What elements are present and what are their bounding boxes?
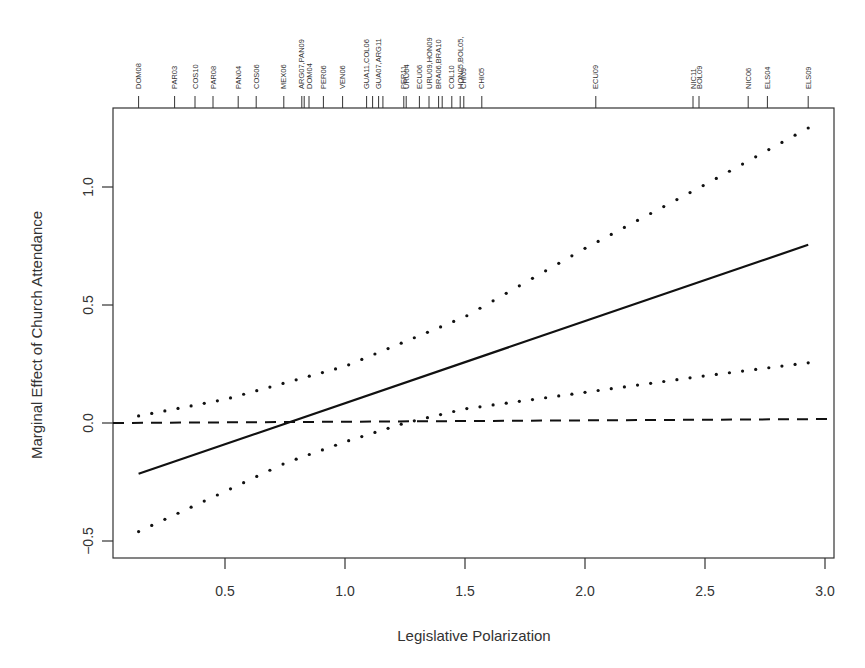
marginal-effect-plot: 0.51.01.52.02.53.0 −0.50.00.51.0 DOM08PA… (0, 0, 865, 668)
rug-label: VEN06 (338, 65, 347, 89)
rug-label: PAR08 (209, 66, 218, 89)
rug-label: BOL09 (695, 66, 704, 89)
rug-label: BRA06,BRA10 (434, 39, 443, 89)
y-tick-label: 1.0 (80, 177, 96, 197)
rug-label: ELS09 (804, 66, 813, 89)
plot-frame (113, 108, 834, 558)
rug-label: ECU06 (415, 65, 424, 89)
top-rug-case-labels: DOM08PAR03COS10PAR08PAN04COS06MEX06ARG07… (134, 36, 813, 108)
rug-label: COS10 (191, 64, 200, 89)
rug-label: MEX06 (279, 64, 288, 89)
rug-label: PER06 (319, 65, 328, 89)
rug-label: ECU09 (591, 65, 600, 89)
x-tick-label: 2.5 (695, 583, 715, 599)
data-series (113, 126, 834, 533)
upper-ci-dots (137, 126, 810, 417)
rug-label: CHI09 (459, 68, 468, 89)
y-axis: −0.50.00.51.0 (80, 177, 113, 555)
x-tick-label: 3.0 (815, 583, 835, 599)
marginal-effect-line (139, 245, 809, 474)
x-tick-label: 0.5 (215, 583, 235, 599)
y-axis-title: Marginal Effect of Church Attendance (28, 211, 45, 459)
rug-label: DOM08 (134, 63, 143, 89)
x-tick-label: 1.5 (455, 583, 475, 599)
x-axis-title: Legislative Polarization (397, 627, 550, 644)
rug-label: PAN04 (234, 66, 243, 89)
y-tick-label: 0.0 (80, 413, 96, 433)
x-axis: 0.51.01.52.02.53.0 (215, 558, 835, 599)
rug-label: PAR03 (170, 66, 179, 89)
y-tick-label: 0.5 (80, 295, 96, 315)
lower-ci-dots (137, 361, 810, 533)
rug-label: COS06 (252, 64, 261, 89)
y-tick-label: −0.5 (80, 527, 96, 555)
rug-label: URU04 (402, 64, 411, 89)
rug-label: GUA07,ARG11 (374, 38, 383, 89)
x-tick-label: 1.0 (335, 583, 355, 599)
x-tick-label: 2.0 (575, 583, 595, 599)
rug-label: CHI05 (477, 68, 486, 89)
zero-reference-line (113, 419, 834, 423)
rug-label: DOM04 (305, 63, 314, 89)
rug-label: GUA11,COL06 (362, 39, 371, 89)
rug-label: NIC06 (744, 68, 753, 89)
rug-label: ELS04 (763, 66, 772, 89)
rug-label: URU09,HON09 (425, 37, 434, 89)
